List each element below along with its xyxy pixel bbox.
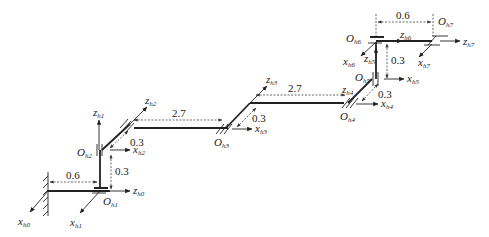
svg-text:xh0: xh0 [17, 215, 30, 229]
svg-text:Oh7: Oh7 [438, 15, 453, 29]
svg-text:2.7: 2.7 [172, 107, 186, 119]
svg-text:Oh3: Oh3 [214, 136, 229, 150]
svg-text:zh4: zh4 [341, 83, 354, 97]
joint-h3: Oh3 xh3 [214, 122, 267, 150]
link-2 [102, 124, 130, 150]
svg-text:xh5: xh5 [406, 72, 419, 86]
joint-h1: xh1 Oh1 [69, 188, 118, 230]
svg-text:0.3: 0.3 [391, 54, 405, 66]
label-z-h3: zh3 [265, 73, 278, 87]
svg-text:Oh1: Oh1 [103, 195, 118, 209]
svg-text:xh3: xh3 [254, 122, 267, 136]
label-z-h5: zh5 [363, 52, 376, 66]
svg-text:0.3: 0.3 [115, 165, 129, 177]
svg-text:xh7: xh7 [417, 56, 430, 70]
svg-text:0.3: 0.3 [130, 136, 144, 148]
joint-h2-hatch [120, 119, 134, 132]
link-4 [226, 103, 250, 128]
svg-text:xh1: xh1 [69, 216, 82, 230]
svg-text:0.3: 0.3 [252, 112, 266, 124]
svg-text:xh6: xh6 [342, 55, 355, 69]
kinematic-diagram: zh0 xh0 xh1 Oh1 0.6 zh1 0.3 Oh2 xh2 zh2 … [0, 0, 489, 237]
svg-text:Oh6: Oh6 [346, 32, 361, 46]
svg-text:Oh5: Oh5 [355, 71, 370, 85]
svg-text:Oh2: Oh2 [77, 146, 92, 160]
label-z-h1: zh1 [92, 106, 104, 120]
svg-text:0.3: 0.3 [378, 88, 392, 100]
dim-0.6-end: 0.6 [396, 9, 410, 21]
label-z-h2: zh2 [144, 94, 157, 108]
joint-h7: zh7 xh7 Oh7 [417, 15, 475, 70]
dim-0.6-base: 0.6 [66, 169, 80, 181]
svg-text:zh6: zh6 [399, 28, 412, 42]
svg-text:zh7: zh7 [462, 35, 475, 49]
svg-text:2.7: 2.7 [288, 82, 302, 94]
svg-text:Oh4: Oh4 [340, 110, 355, 124]
svg-text:zh0: zh0 [132, 184, 145, 198]
